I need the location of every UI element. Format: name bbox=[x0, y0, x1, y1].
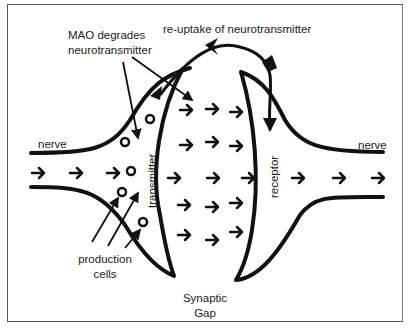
nerve-left-label: nerve bbox=[38, 137, 67, 151]
reuptake-arc bbox=[160, 45, 271, 130]
gap-label-line1: Synaptic bbox=[180, 291, 230, 305]
production-label-line2: cells bbox=[78, 267, 132, 281]
reuptake-arrowhead-right bbox=[262, 55, 277, 72]
transmitter-label: transmitter bbox=[145, 154, 159, 208]
transmitter-membrane bbox=[156, 68, 183, 276]
reuptake-arrowhead-down bbox=[263, 118, 277, 132]
mao-label-line1: MAO degrades bbox=[68, 28, 145, 42]
reuptake-label: re-uptake of neurotransmitter bbox=[163, 22, 311, 36]
production-label-line1: production bbox=[78, 252, 132, 266]
synapse-diagram bbox=[0, 0, 414, 333]
mao-label-line2: neurotransmitter bbox=[68, 43, 152, 57]
signal-arrows bbox=[32, 104, 384, 245]
receptor-label: receptor bbox=[267, 156, 281, 198]
nerve-right-label: nerve bbox=[358, 138, 387, 152]
right-nerve-outline bbox=[236, 72, 383, 280]
gap-label-line2: Gap bbox=[180, 306, 230, 320]
